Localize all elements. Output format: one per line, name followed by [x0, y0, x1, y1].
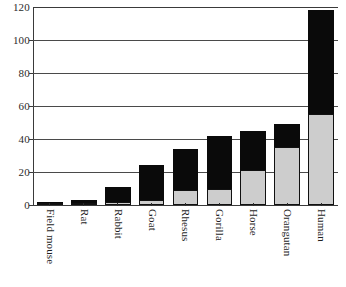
bar-segment-upper[interactable] [173, 149, 199, 191]
x-tick-label: Human [316, 209, 327, 242]
x-tick-mark [49, 203, 50, 206]
bar-segment-lower[interactable] [240, 170, 266, 205]
bar-group[interactable] [240, 131, 266, 205]
bar-group[interactable] [139, 165, 165, 205]
x-tick-label-slot: Human [304, 206, 338, 287]
y-tick-label: 40 [4, 134, 30, 145]
y-tick-label: 60 [4, 101, 30, 112]
x-tick-label-slot: Gorilla [202, 206, 236, 287]
bar-segment-upper[interactable] [240, 131, 266, 172]
x-tick-label: Field mouse [44, 209, 55, 264]
y-tick-label: 120 [4, 2, 30, 13]
x-tick-mark [253, 203, 254, 206]
bar-segment-upper[interactable] [308, 10, 334, 115]
x-tick-mark [219, 203, 220, 206]
bar-segment-upper[interactable] [274, 124, 300, 148]
x-tick-label-slot: Rhesus [169, 206, 203, 287]
x-tick-mark [321, 203, 322, 206]
plot-area [33, 7, 338, 205]
bars-layer [33, 7, 338, 205]
x-tick-label: Rhesus [180, 209, 191, 241]
x-tick-label: Goat [146, 209, 157, 231]
x-tick-label: Orangutan [282, 209, 293, 256]
x-tick-label-slot: Field mouse [33, 206, 67, 287]
x-tick-label: Rabbit [112, 209, 123, 239]
x-tick-label-slot: Rabbit [101, 206, 135, 287]
x-tick-label-slot: Orangutan [270, 206, 304, 287]
x-tick-mark [83, 203, 84, 206]
x-tick-mark [117, 203, 118, 206]
bar-group[interactable] [173, 149, 199, 205]
y-tick-label: 100 [4, 35, 30, 46]
bar-group[interactable] [308, 10, 334, 205]
bar-segment-upper[interactable] [105, 187, 131, 203]
bar-group[interactable] [207, 136, 233, 205]
bar-segment-upper[interactable] [139, 165, 165, 201]
x-tick-label: Rat [78, 209, 89, 225]
bar-segment-lower[interactable] [274, 147, 300, 205]
x-tick-mark [185, 203, 186, 206]
y-tick-label: 20 [4, 167, 30, 178]
bar-group[interactable] [274, 124, 300, 205]
bar-segment-lower[interactable] [308, 114, 334, 205]
bar-chart: 020406080100120 Field mouseRatRabbitGoat… [0, 0, 346, 287]
y-tick-label: 0 [4, 200, 30, 211]
y-axis-tick-labels: 020406080100120 [0, 0, 30, 287]
x-tick-label-slot: Rat [67, 206, 101, 287]
x-tick-mark [287, 203, 288, 206]
y-tick-label: 80 [4, 68, 30, 79]
x-tick-label-slot: Horse [236, 206, 270, 287]
x-axis-tick-labels: Field mouseRatRabbitGoatRhesusGorillaHor… [33, 206, 338, 287]
x-tick-label: Horse [248, 209, 259, 236]
x-tick-mark [151, 203, 152, 206]
x-tick-label-slot: Goat [135, 206, 169, 287]
x-tick-label: Gorilla [214, 209, 225, 241]
bar-segment-upper[interactable] [207, 136, 233, 190]
